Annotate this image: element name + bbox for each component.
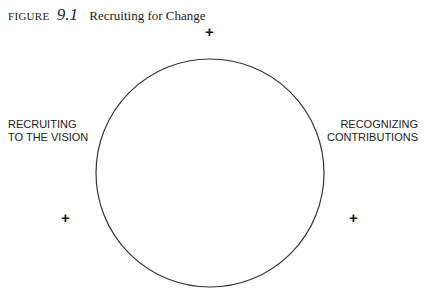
label-recognizing-contributions: RECOGNIZING CONTRIBUTIONS xyxy=(327,118,418,144)
cycle-circle xyxy=(0,0,424,295)
plus-marker-top: + xyxy=(205,24,214,39)
plus-marker-left: + xyxy=(61,210,70,225)
plus-marker-right: + xyxy=(349,210,358,225)
label-line: RECRUITING xyxy=(8,118,88,131)
label-line: TO THE VISION xyxy=(8,131,88,144)
label-recruiting-to-the-vision: RECRUITING TO THE VISION xyxy=(8,118,88,144)
label-line: CONTRIBUTIONS xyxy=(327,131,418,144)
label-line: RECOGNIZING xyxy=(327,118,418,131)
